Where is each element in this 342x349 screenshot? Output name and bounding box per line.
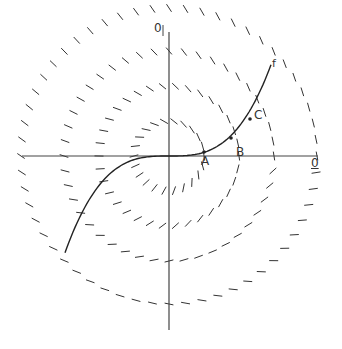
- dash-mark: [246, 27, 250, 35]
- dash-mark: [105, 118, 114, 120]
- dash-mark: [172, 223, 179, 229]
- dash-mark: [60, 259, 68, 263]
- dash-mark: [131, 146, 140, 147]
- dash-mark: [99, 130, 108, 132]
- dash-mark: [245, 222, 253, 227]
- point-label-b: B: [236, 146, 244, 158]
- dash-mark: [121, 251, 130, 252]
- dash-mark: [143, 179, 150, 185]
- dash-mark: [309, 188, 318, 189]
- dash-mark: [61, 170, 70, 172]
- dash-mark: [150, 5, 155, 12]
- dash-mark: [49, 246, 57, 250]
- dash-mark: [209, 96, 214, 104]
- dash-mark: [198, 171, 199, 180]
- dash-mark: [151, 49, 157, 56]
- dash-mark: [70, 110, 78, 114]
- dash-mark: [172, 186, 175, 195]
- dash-mark: [97, 74, 104, 79]
- point-b: [229, 136, 233, 140]
- dash-mark: [272, 47, 275, 55]
- dash-mark: [133, 8, 138, 15]
- dash-mark: [312, 172, 321, 173]
- dash-mark: [21, 187, 29, 192]
- horizontal-axis-label: 0: [311, 157, 319, 169]
- dash-mark: [134, 217, 142, 221]
- dash-mark: [236, 73, 240, 81]
- dash-mark: [40, 233, 48, 237]
- dash-mark: [116, 294, 125, 297]
- dash-mark: [136, 172, 144, 177]
- dash-mark: [123, 98, 131, 102]
- dash-mark: [183, 5, 188, 13]
- dash-mark: [160, 119, 168, 124]
- dash-mark: [222, 242, 230, 246]
- dash-mark: [209, 208, 214, 216]
- dash-mark: [219, 105, 223, 113]
- dash-mark: [21, 120, 28, 126]
- dash-mark: [87, 27, 93, 34]
- dash-mark: [293, 73, 296, 82]
- dash-mark: [247, 83, 251, 91]
- dash-mark: [61, 140, 69, 143]
- dash-mark: [50, 61, 57, 67]
- dash-mark: [254, 210, 262, 215]
- dash-mark: [64, 125, 72, 129]
- dash-mark: [198, 300, 207, 301]
- dash-mark: [183, 183, 185, 192]
- dash-mark: [237, 165, 239, 174]
- dash-mark: [102, 19, 108, 26]
- dash-mark: [113, 107, 122, 110]
- vertical-axis-label: 0: [154, 22, 162, 34]
- dash-mark: [200, 8, 205, 16]
- dash-mark: [86, 85, 94, 90]
- curve-label-f: f: [272, 58, 276, 69]
- point-label-c: C: [254, 109, 262, 121]
- dash-mark: [210, 57, 215, 65]
- dash-mark: [101, 288, 110, 291]
- dash-mark: [171, 119, 178, 125]
- dash-mark: [135, 256, 144, 257]
- dash-mark: [181, 121, 187, 128]
- dash-mark: [301, 88, 304, 97]
- dash-mark: [146, 86, 154, 91]
- dash-mark: [216, 12, 220, 20]
- dash-mark: [227, 115, 230, 123]
- dash-mark: [148, 302, 157, 304]
- dash-mark: [76, 212, 85, 213]
- dash-mark: [167, 4, 172, 12]
- dash-mark: [269, 122, 271, 131]
- diagram-canvas: [0, 0, 342, 349]
- dash-mark: [26, 104, 33, 110]
- dash-mark: [136, 52, 143, 58]
- dash-mark: [61, 48, 67, 55]
- dash-mark: [185, 85, 191, 92]
- dash-mark: [122, 58, 129, 64]
- dash-mark: [197, 133, 201, 141]
- dash-mark: [224, 64, 228, 72]
- dash-mark: [96, 169, 105, 170]
- dash-mark: [180, 259, 189, 262]
- point-c: [248, 117, 252, 121]
- dash-mark: [312, 119, 314, 128]
- dash-mark: [18, 137, 25, 142]
- dash-mark: [73, 270, 81, 273]
- dash-mark: [243, 281, 252, 282]
- point-label-a: A: [201, 155, 209, 167]
- dash-mark: [18, 170, 26, 175]
- dash-mark: [234, 233, 242, 237]
- dash-mark: [150, 123, 159, 126]
- dash-mark: [196, 52, 201, 59]
- dash-mark: [298, 220, 307, 221]
- dash-mark: [181, 302, 190, 304]
- dash-mark: [231, 19, 235, 27]
- dash-mark: [261, 197, 268, 202]
- dash-mark: [146, 221, 154, 226]
- dash-mark: [189, 126, 194, 134]
- curve-points: [202, 117, 252, 154]
- dash-mark: [172, 83, 179, 89]
- dash-mark: [283, 60, 286, 68]
- dash-mark: [123, 210, 131, 214]
- dash-mark: [185, 220, 191, 227]
- dash-mark: [308, 103, 310, 112]
